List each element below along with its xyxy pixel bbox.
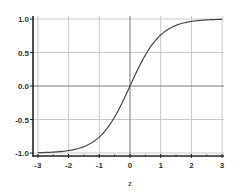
x-tick-label: 3 bbox=[220, 161, 225, 170]
zero-reference-lines bbox=[33, 16, 224, 156]
x-axis-label: z bbox=[128, 179, 132, 188]
x-tick-label: 1 bbox=[158, 161, 163, 170]
y-tick-label: 0.0 bbox=[18, 82, 30, 91]
x-tick-label: -2 bbox=[65, 161, 73, 170]
y-tick-label: 1.0 bbox=[18, 15, 30, 24]
y-axis-ticks: -1.0-0.50.00.51.0 bbox=[15, 15, 33, 158]
y-tick-label: -1.0 bbox=[15, 149, 29, 158]
x-tick-label: 0 bbox=[128, 161, 133, 170]
x-tick-label: -3 bbox=[34, 161, 42, 170]
y-tick-label: 0.5 bbox=[18, 49, 30, 58]
x-tick-label: -1 bbox=[96, 161, 104, 170]
y-tick-label: -0.5 bbox=[15, 116, 29, 125]
x-tick-label: 2 bbox=[189, 161, 194, 170]
tanh-chart: -1.0-0.50.00.51.0 -3-2-10123 z bbox=[0, 0, 239, 193]
